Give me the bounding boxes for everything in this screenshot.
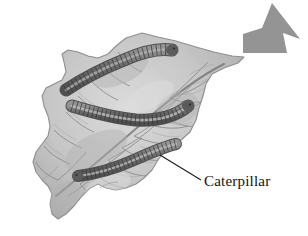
caterpillar-label: Caterpillar [204,173,270,190]
direction-arrow [243,3,300,53]
figure-root: Caterpillar [0,0,308,236]
leader-line [160,155,201,180]
leaf-illustration-canvas [0,0,308,236]
